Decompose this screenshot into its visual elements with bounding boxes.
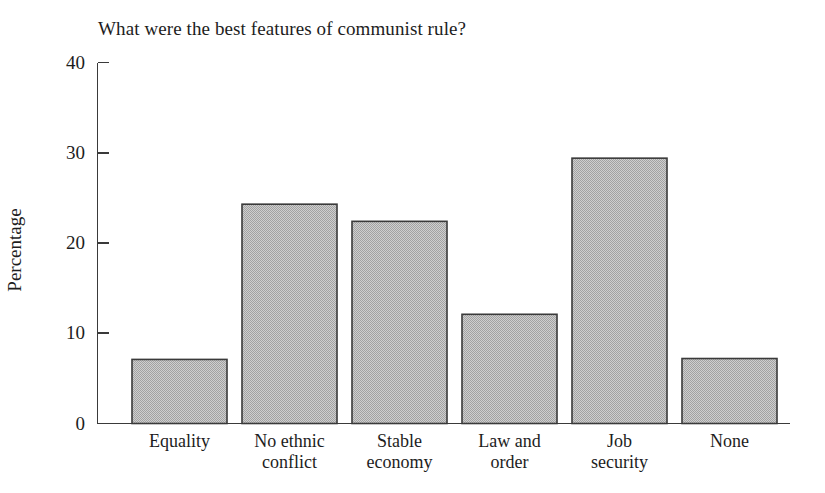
bars (132, 158, 777, 423)
bar (242, 204, 337, 423)
y-tick-label: 0 (45, 414, 85, 433)
bar (352, 221, 447, 423)
x-category-label: None (660, 431, 799, 452)
y-axis-ticks (98, 63, 109, 334)
x-category-label-line: security (550, 452, 689, 473)
y-tick-label: 30 (45, 143, 85, 162)
y-tick-label: 40 (45, 53, 85, 72)
bar (132, 359, 227, 423)
bar (682, 359, 777, 424)
bar (572, 158, 667, 423)
plot-area (0, 0, 825, 493)
y-tick-label: 10 (45, 323, 85, 342)
bar-chart: What were the best features of communist… (0, 0, 825, 493)
x-category-label-line: None (660, 431, 799, 452)
y-tick-label: 20 (45, 233, 85, 252)
bar (462, 314, 557, 423)
